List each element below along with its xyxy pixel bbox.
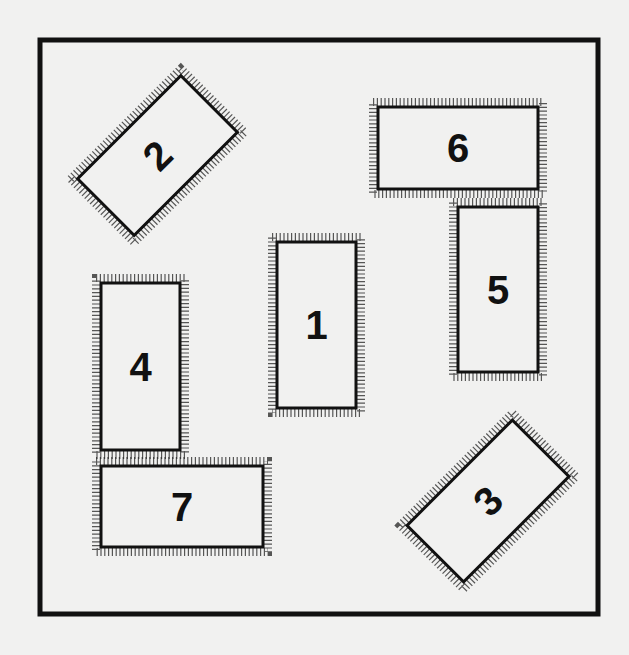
numbered-rectangle-2: 2 [71,69,245,243]
numbered-rectangle-3: 3 [400,413,576,589]
numbered-rectangle-5: 5 [453,202,543,377]
rectangle-label: 5 [487,268,509,312]
numbered-rectangle-1: 1 [272,237,361,413]
rectangle-label: 7 [171,485,193,529]
diagram-canvas: 1234567 [0,0,629,655]
numbered-rectangle-6: 6 [373,102,543,194]
rectangle-label: 6 [447,126,469,170]
rectangles-group: 1234567 [71,69,577,590]
numbered-rectangle-7: 7 [96,461,268,552]
rectangle-label: 4 [129,345,152,389]
numbered-rectangle-4: 4 [96,278,185,455]
rectangle-label: 1 [305,303,327,347]
